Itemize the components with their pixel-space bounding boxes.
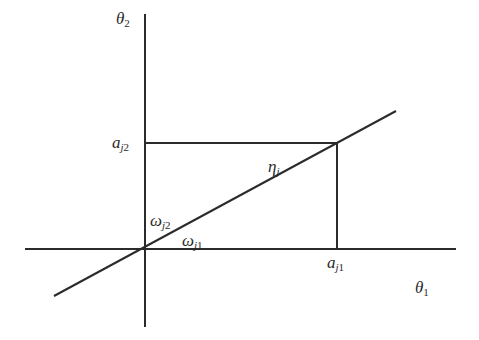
theta1-axis-label: θ1 xyxy=(415,279,429,298)
eta-sub-j: j xyxy=(276,165,279,177)
diagram-svg xyxy=(0,0,479,340)
theta2-axis-label: θ2 xyxy=(116,10,130,29)
omega-j1-base: ω xyxy=(182,231,194,250)
aj2-base: a xyxy=(112,133,121,152)
omega-j2-sub-num: 2 xyxy=(165,219,171,231)
omega-j2-base: ω xyxy=(150,211,162,230)
theta1-sub: 1 xyxy=(423,286,429,298)
omega-j1-sub-num: 1 xyxy=(197,239,203,251)
theta2-sub: 2 xyxy=(124,17,130,29)
eta-vector-line xyxy=(54,111,396,296)
aj1-label: aj1 xyxy=(327,254,344,273)
aj1-sub-num: 1 xyxy=(339,261,345,273)
diagram-canvas: θ2 aj2 ηj ωj2 ωj1 aj1 θ1 xyxy=(0,0,479,340)
omega-j2-label: ωj2 xyxy=(150,212,171,231)
aj2-label: aj2 xyxy=(112,134,129,153)
omega-j1-label: ωj1 xyxy=(182,232,203,251)
eta-j-label: ηj xyxy=(268,158,280,177)
aj2-sub-num: 2 xyxy=(124,141,130,153)
aj1-base: a xyxy=(327,253,336,272)
